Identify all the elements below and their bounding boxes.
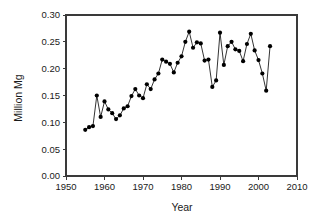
data-point (118, 113, 122, 117)
data-point (229, 40, 233, 44)
data-point (172, 70, 176, 74)
data-point (245, 42, 249, 46)
data-point (264, 89, 268, 93)
data-point (95, 93, 99, 97)
data-point (164, 60, 168, 64)
data-point (256, 58, 260, 62)
data-point (187, 30, 191, 34)
y-tick-label: 0.20 (42, 63, 61, 74)
data-point (206, 57, 210, 61)
line-chart: 0.000.050.100.150.200.250.30 19501960197… (0, 0, 317, 218)
data-point (179, 54, 183, 58)
data-point (183, 40, 187, 44)
data-point (114, 117, 118, 121)
data-point (156, 71, 160, 75)
y-tick-label: 0.30 (42, 9, 61, 20)
data-point (137, 93, 141, 97)
data-point (268, 44, 272, 48)
y-tick-label: 0.00 (42, 170, 61, 181)
plot-frame (66, 15, 297, 176)
data-point (210, 85, 214, 89)
data-point (226, 44, 230, 48)
data-point (83, 128, 87, 132)
data-point (145, 82, 149, 86)
data-point (129, 94, 133, 98)
data-point (218, 31, 222, 35)
data-point (106, 107, 110, 111)
data-point (87, 125, 91, 129)
data-point (99, 115, 103, 119)
x-tick-label: 1970 (132, 181, 153, 192)
data-point (249, 32, 253, 36)
y-tick-label: 0.05 (42, 144, 61, 155)
data-point (110, 111, 114, 115)
data-point (199, 41, 203, 45)
data-point (160, 57, 164, 61)
data-point (122, 106, 126, 110)
y-tick-label: 0.25 (42, 36, 61, 47)
y-axis-tick-labels: 0.000.050.100.150.200.250.30 (42, 9, 61, 181)
y-axis-title: Million Mg (12, 74, 24, 121)
data-point (253, 48, 257, 52)
data-point (152, 77, 156, 81)
data-point (102, 99, 106, 103)
data-point (176, 61, 180, 65)
data-point (241, 59, 245, 63)
data-point (126, 104, 130, 108)
x-tick-label: 1950 (55, 181, 76, 192)
data-point (168, 62, 172, 66)
data-point (195, 40, 199, 44)
data-point (191, 46, 195, 50)
data-point (133, 87, 137, 91)
x-tick-label: 1960 (94, 181, 115, 192)
chart-figure: 0.000.050.100.150.200.250.30 19501960197… (0, 0, 317, 218)
data-series (83, 30, 272, 132)
data-point (149, 87, 153, 91)
x-axis-tick-labels: 1950196019701980199020002010 (55, 181, 307, 192)
data-point (203, 59, 207, 63)
x-tick-label: 2010 (286, 181, 307, 192)
data-point (214, 78, 218, 82)
data-point (91, 124, 95, 128)
y-tick-label: 0.10 (42, 117, 61, 128)
data-point (237, 49, 241, 53)
data-point (222, 63, 226, 67)
x-tick-label: 1980 (171, 181, 192, 192)
data-point (260, 71, 264, 75)
y-tick-label: 0.15 (42, 90, 61, 101)
data-point (233, 47, 237, 51)
x-axis-title: Year (171, 201, 193, 213)
x-tick-label: 2000 (248, 181, 269, 192)
x-tick-label: 1990 (209, 181, 230, 192)
data-point (141, 96, 145, 100)
